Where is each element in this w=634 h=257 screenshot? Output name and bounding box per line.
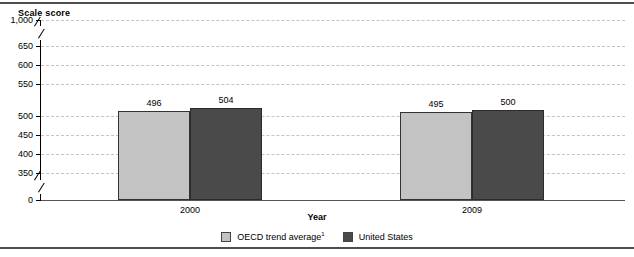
y-axis-label: 550: [18, 79, 33, 89]
legend-label-oecd: OECD trend average1: [237, 231, 324, 242]
gridline: [41, 65, 625, 66]
y-axis-label: 500: [18, 111, 33, 121]
x-axis-title: Year: [0, 212, 634, 222]
bar-us-2009[interactable]: [472, 110, 544, 201]
y-axis-label: 400: [18, 149, 33, 159]
bar-oecd-2000[interactable]: [118, 111, 190, 200]
y-axis-tick: [36, 135, 41, 136]
bar-value-us-2000: 504: [218, 95, 233, 105]
y-axis-tick: [36, 116, 41, 117]
y-axis-tick: [36, 200, 41, 201]
chart-figure: Scale score 1,0006506005505004504003500 …: [0, 0, 634, 257]
legend-swatch-oecd: [221, 232, 231, 242]
bar-oecd-2009[interactable]: [400, 112, 472, 200]
y-axis-tick: [36, 84, 41, 85]
gridline: [41, 46, 625, 47]
gridline: [41, 20, 625, 21]
bar-value-us-2009: 500: [500, 97, 515, 107]
top-rule: [0, 2, 634, 4]
y-axis-tick: [36, 154, 41, 155]
y-axis-tick: [36, 65, 41, 66]
gridline: [41, 84, 625, 85]
y-axis-tick: [36, 173, 41, 174]
legend-item-oecd[interactable]: OECD trend average1: [221, 231, 324, 242]
bar-value-oecd-2009: 495: [428, 99, 443, 109]
legend-label-united-states: United States: [359, 232, 413, 242]
axis-break-upper: [34, 26, 48, 40]
bar-value-oecd-2000: 496: [146, 98, 161, 108]
y-axis-label: 350: [18, 168, 33, 178]
y-axis-label: 450: [18, 130, 33, 140]
x-axis-spine: [40, 200, 625, 201]
legend-item-united-states[interactable]: United States: [343, 232, 413, 242]
chart-legend: OECD trend average1 United States: [0, 231, 634, 242]
axis-break-lower: [34, 180, 48, 194]
y-axis-label: 0: [28, 195, 33, 205]
bottom-rule: [0, 247, 634, 249]
bar-us-2000[interactable]: [190, 108, 262, 200]
y-axis-label: 1,000: [10, 15, 33, 25]
legend-swatch-united-states: [343, 232, 353, 242]
plot-area: 1,0006506005505004504003500 496504495500…: [40, 20, 625, 200]
y-axis-label: 600: [18, 60, 33, 70]
y-axis-tick: [36, 20, 41, 21]
y-axis-label: 650: [18, 41, 33, 51]
y-axis-tick: [36, 46, 41, 47]
